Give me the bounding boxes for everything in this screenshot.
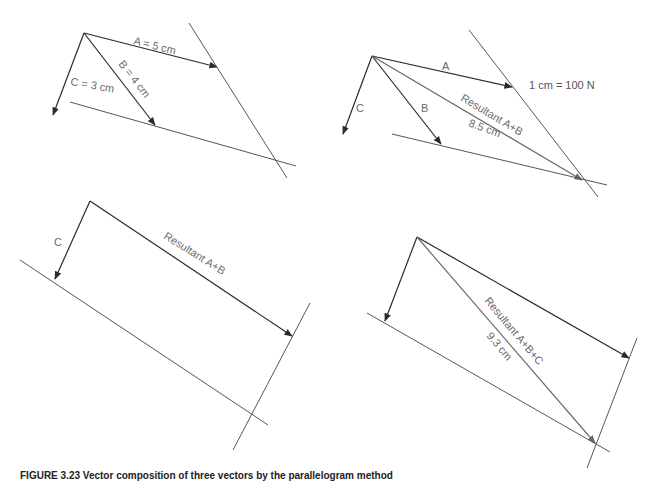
parallel-guide-line [233, 303, 310, 450]
parallel-guide-line [587, 338, 637, 468]
panel-4: Resultant A+B+C 9.3 cm [367, 237, 637, 468]
vector-diagram: A = 5 cm B = 4 cm C = 3 cm A B C 1 cm = … [0, 0, 653, 481]
vector-c-arrow [343, 56, 372, 134]
resultant-ab-arrow [90, 201, 292, 336]
vector-c-arrow [385, 237, 417, 321]
label-a: A = 5 cm [133, 34, 178, 56]
scale-label: 1 cm = 100 N [529, 79, 595, 91]
parallel-guide-line [70, 102, 296, 166]
panel-2: A B C 1 cm = 100 N Resultant A+B 8.5 cm [343, 30, 607, 197]
label-c: C [54, 236, 62, 248]
parallel-guide-line [20, 260, 268, 425]
parallel-guide-line [189, 23, 287, 178]
figure-caption: FIGURE 3.23 Vector composition of three … [20, 470, 393, 481]
label-b: B [421, 102, 428, 114]
parallel-guide-line [392, 134, 607, 185]
panel-3: C Resultant A+B [20, 201, 310, 450]
panel-1: A = 5 cm B = 4 cm C = 3 cm [53, 23, 296, 178]
label-a: A [442, 60, 450, 72]
label-b: B = 4 cm [116, 58, 152, 100]
label-c: C [356, 102, 364, 114]
label-c: C = 3 cm [70, 75, 116, 95]
resultant-label: Resultant A+B [162, 230, 228, 277]
vector-c-arrow [53, 33, 84, 115]
resultant-abc-arrow [417, 237, 595, 443]
